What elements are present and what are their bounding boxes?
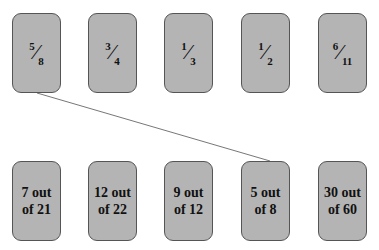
ratio-text: 9 outof 12 bbox=[174, 184, 204, 218]
numerator: 3 bbox=[105, 40, 111, 52]
numerator: 1 bbox=[181, 40, 187, 52]
match-line bbox=[37, 93, 270, 161]
fraction-card[interactable]: 5⁄8 bbox=[12, 13, 61, 93]
fraction-card[interactable]: 3⁄4 bbox=[88, 13, 137, 93]
fraction: 6⁄11 bbox=[333, 41, 353, 65]
ratio-text: 12 outof 22 bbox=[94, 184, 131, 218]
fraction-card[interactable]: 6⁄11 bbox=[318, 13, 367, 93]
denominator: 11 bbox=[342, 55, 352, 67]
ratio-card[interactable]: 30 outof 60 bbox=[318, 161, 367, 241]
ratio-line-1: 30 out bbox=[324, 184, 361, 201]
ratio-card[interactable]: 5 outof 8 bbox=[241, 161, 290, 241]
denominator: 2 bbox=[267, 55, 273, 67]
ratio-line-2: of 12 bbox=[174, 201, 204, 218]
fraction-card[interactable]: 1⁄2 bbox=[241, 13, 290, 93]
denominator: 4 bbox=[114, 55, 120, 67]
fraction: 3⁄4 bbox=[105, 41, 120, 65]
ratio-line-2: of 22 bbox=[94, 201, 131, 218]
ratio-line-1: 5 out bbox=[251, 184, 281, 201]
denominator: 8 bbox=[38, 55, 44, 67]
fraction: 1⁄3 bbox=[181, 41, 196, 65]
ratio-line-2: of 8 bbox=[251, 201, 281, 218]
ratio-text: 5 outof 8 bbox=[251, 184, 281, 218]
numerator: 6 bbox=[333, 40, 339, 52]
fraction: 5⁄8 bbox=[29, 41, 44, 65]
ratio-card[interactable]: 9 outof 12 bbox=[164, 161, 213, 241]
denominator: 3 bbox=[190, 55, 196, 67]
ratio-line-1: 9 out bbox=[174, 184, 204, 201]
ratio-line-2: of 21 bbox=[22, 201, 52, 218]
ratio-text: 7 outof 21 bbox=[22, 184, 52, 218]
numerator: 1 bbox=[258, 40, 264, 52]
ratio-text: 30 outof 60 bbox=[324, 184, 361, 218]
fraction: 1⁄2 bbox=[258, 41, 273, 65]
fraction-card[interactable]: 1⁄3 bbox=[164, 13, 213, 93]
ratio-line-1: 12 out bbox=[94, 184, 131, 201]
ratio-line-1: 7 out bbox=[22, 184, 52, 201]
ratio-line-2: of 60 bbox=[324, 201, 361, 218]
ratio-card[interactable]: 12 outof 22 bbox=[88, 161, 137, 241]
ratio-card[interactable]: 7 outof 21 bbox=[12, 161, 61, 241]
numerator: 5 bbox=[29, 40, 35, 52]
